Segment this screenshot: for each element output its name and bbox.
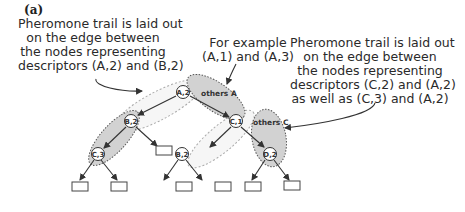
svg-text:D,2: D,2 bbox=[263, 151, 276, 159]
leaf-box bbox=[111, 182, 127, 191]
node-a2: A,2 bbox=[176, 86, 189, 99]
svg-text:B,2: B,2 bbox=[176, 151, 189, 159]
leaf-box bbox=[245, 182, 261, 191]
group-label-others-a: others A bbox=[201, 89, 237, 98]
group-label-others-c: others C bbox=[253, 118, 289, 127]
leaf-box bbox=[176, 182, 192, 191]
arrow-left-annotation bbox=[96, 79, 142, 91]
node-b2-left: B,2 bbox=[125, 115, 138, 128]
node-c3: C,3 bbox=[92, 148, 105, 161]
node-c1: C,1 bbox=[230, 115, 243, 128]
svg-text:A,2: A,2 bbox=[176, 89, 189, 97]
arrow-middle-annotation bbox=[227, 64, 236, 84]
tree-diagram: others A others C A,2 B,2 C,3 C,1 B,2 bbox=[0, 0, 465, 212]
leaf-box bbox=[215, 182, 231, 191]
arrow-right-annotation bbox=[285, 103, 375, 128]
leaf-box bbox=[284, 181, 300, 190]
leaf-box bbox=[72, 182, 88, 191]
node-b2-right: B,2 bbox=[176, 148, 189, 161]
node-d2: D,2 bbox=[263, 148, 276, 161]
svg-text:C,3: C,3 bbox=[92, 151, 105, 159]
leaf-box bbox=[156, 146, 172, 155]
svg-text:B,2: B,2 bbox=[125, 118, 138, 126]
svg-text:C,1: C,1 bbox=[230, 118, 243, 126]
